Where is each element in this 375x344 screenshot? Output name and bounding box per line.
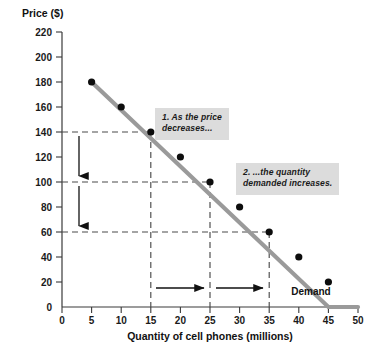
x-tick-label: 5	[89, 315, 95, 326]
y-tick-label: 60	[41, 227, 53, 238]
y-tick-label: 220	[35, 27, 52, 38]
annotation-quantity-increases: 2. ...the quantity demanded increases.	[236, 163, 339, 195]
x-tick-label: 0	[59, 315, 65, 326]
y-tick-label: 140	[35, 127, 52, 138]
x-axis-title: Quantity of cell phones (millions)	[127, 330, 293, 342]
data-point	[88, 78, 95, 85]
y-tick-label: 180	[35, 77, 52, 88]
data-point	[177, 153, 184, 160]
x-tick-label: 35	[264, 315, 276, 326]
annotation-price-decreases: 1. As the price decreases...	[155, 108, 229, 140]
y-tick-label: 200	[35, 52, 52, 63]
y-axis-title: Price ($)	[22, 7, 63, 19]
data-point	[147, 128, 154, 135]
data-point	[236, 203, 243, 210]
demand-curve-label: Demand	[291, 286, 330, 297]
x-tick-label: 40	[293, 315, 305, 326]
y-tick-label: 100	[35, 177, 52, 188]
x-tick-label: 15	[145, 315, 157, 326]
data-point	[325, 278, 332, 285]
y-tick-marks	[56, 32, 62, 282]
y-tick-label: 20	[41, 277, 53, 288]
x-tick-label: 45	[323, 315, 335, 326]
x-tick-label: 20	[175, 315, 187, 326]
demand-curve-chart: 220 200 180 160 140 120 100 80 60 40 20 …	[0, 0, 375, 344]
x-tick-labels: 0 5 10 15 20 25 30 35 40 45 50	[59, 315, 364, 326]
y-tick-label: 160	[35, 102, 52, 113]
quantity-reference-lines	[151, 132, 269, 307]
x-tick-label: 50	[352, 315, 364, 326]
y-tick-label: 40	[41, 252, 53, 263]
data-point	[266, 228, 273, 235]
y-tick-label: 120	[35, 152, 52, 163]
y-tick-labels: 220 200 180 160 140 120 100 80 60 40 20 …	[35, 27, 52, 313]
data-point	[118, 103, 125, 110]
x-tick-marks	[62, 307, 358, 313]
data-point	[206, 178, 213, 185]
x-tick-label: 10	[116, 315, 128, 326]
x-tick-label: 30	[234, 315, 246, 326]
y-tick-label: 80	[41, 202, 53, 213]
data-point	[295, 253, 302, 260]
x-tick-label: 25	[204, 315, 216, 326]
y-tick-label: 0	[46, 302, 52, 313]
